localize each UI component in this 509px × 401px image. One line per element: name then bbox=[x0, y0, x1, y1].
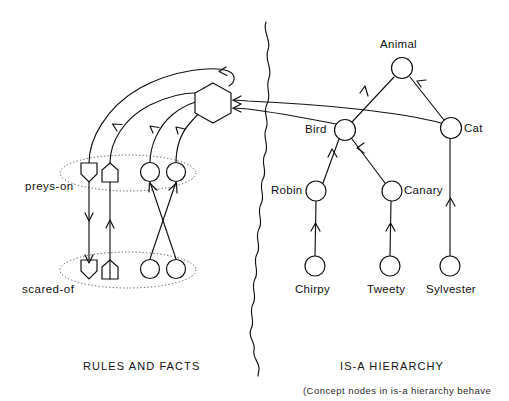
preys-on-slot-3[interactable] bbox=[141, 163, 160, 182]
wavy-divider bbox=[250, 22, 270, 376]
isa-link-cat-animal-arrowhead bbox=[417, 80, 426, 87]
isa-node-chirpy[interactable] bbox=[305, 256, 325, 276]
label-chirpy: Chirpy bbox=[295, 283, 330, 295]
isa-node-robin[interactable] bbox=[306, 181, 326, 201]
label-canary: Canary bbox=[404, 184, 443, 196]
frame-link-slot1-arrowhead bbox=[219, 67, 227, 76]
preys-on-slot-2[interactable] bbox=[102, 163, 118, 182]
label-scared-of: scared-of bbox=[22, 283, 74, 295]
cross-links-to-frame bbox=[233, 96, 441, 124]
isa-node-tweety[interactable] bbox=[380, 256, 400, 276]
section-title-rules-and-facts: RULES AND FACTS bbox=[83, 360, 200, 372]
cross-link-bird bbox=[233, 108, 336, 124]
label-animal: Animal bbox=[380, 38, 417, 50]
rule-frame-node[interactable] bbox=[195, 83, 231, 123]
label-sylvester: Sylvester bbox=[426, 283, 476, 295]
frame-link-slot4-arrowhead bbox=[176, 127, 185, 134]
label-tweety: Tweety bbox=[367, 283, 405, 295]
label-bird: Bird bbox=[305, 123, 327, 135]
scared-of-slot-4[interactable] bbox=[167, 260, 186, 279]
isa-link-bird-animal-arrowhead bbox=[360, 86, 368, 96]
isa-link-cat-animal bbox=[410, 77, 444, 120]
preys-on-slot-4[interactable] bbox=[167, 163, 186, 182]
label-cat: Cat bbox=[464, 122, 483, 134]
isa-node-sylvester[interactable] bbox=[440, 256, 460, 276]
isa-node-bird[interactable] bbox=[335, 120, 356, 141]
isa-node-canary[interactable] bbox=[382, 181, 402, 201]
diagram-svg bbox=[0, 0, 509, 401]
isa-link-tweety-canary bbox=[390, 201, 391, 256]
section-title-isa-hierarchy: IS-A HIERARCHY bbox=[340, 360, 444, 372]
isa-link-canary-bird bbox=[352, 139, 385, 183]
frame-link-slot3-arrowhead bbox=[150, 126, 159, 133]
isa-link-chirpy-robin bbox=[315, 201, 316, 256]
isa-node-animal[interactable] bbox=[392, 58, 413, 79]
isa-link-bird-animal bbox=[352, 77, 394, 122]
group-internal-links bbox=[85, 182, 177, 279]
preys-on-slot-1[interactable] bbox=[81, 163, 97, 182]
label-robin: Robin bbox=[271, 184, 303, 196]
isa-link-robin-bird bbox=[323, 139, 339, 183]
scared-of-slot-3[interactable] bbox=[141, 260, 160, 279]
label-preys-on: preys-on bbox=[25, 180, 74, 192]
figure-caption: (Concept nodes in is-a hierarchy behave bbox=[303, 385, 491, 396]
isa-links bbox=[311, 77, 455, 256]
diagram-canvas: preys-on scared-of Animal Bird Cat Robin… bbox=[0, 0, 509, 401]
isa-node-cat[interactable] bbox=[441, 118, 462, 139]
